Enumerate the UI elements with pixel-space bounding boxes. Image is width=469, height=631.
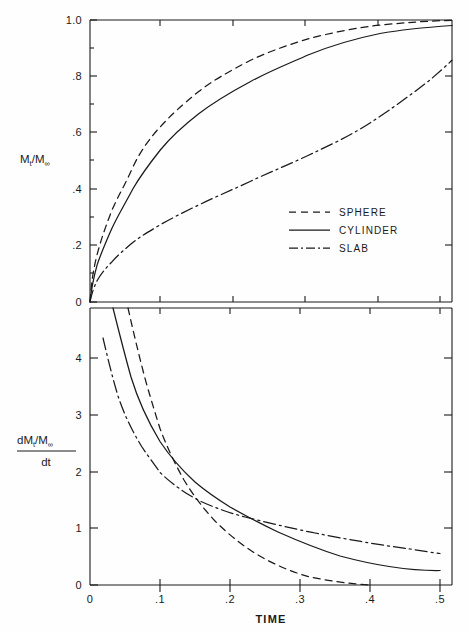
bottom-xtick-0: 0 xyxy=(87,593,93,605)
top-panel-right-ticks xyxy=(445,76,452,245)
two-panel-diffusion-figure: 1.0 .8 .6 .4 .2 0 Mt/M∞ SPHE xyxy=(0,0,469,631)
bottom-xtick-03: .3 xyxy=(295,593,305,605)
curve-sphere-cumulative xyxy=(90,20,452,302)
svg-text:dMt/M∞: dMt/M∞ xyxy=(17,434,53,449)
bottom-ytick-0: 0 xyxy=(76,579,82,591)
legend-label-slab: SLAB xyxy=(339,243,369,254)
top-ylabel-M: M xyxy=(20,153,30,165)
bottom-ytick-2: 2 xyxy=(76,466,82,478)
bottom-xtick-02: .2 xyxy=(225,593,235,605)
top-ytick-3: .6 xyxy=(72,126,82,138)
bottom-xtick-04: .4 xyxy=(365,593,375,605)
legend: SPHERE CYLINDER SLAB xyxy=(289,207,398,254)
top-panel-y-axis-title: Mt/M∞ xyxy=(20,153,50,168)
bottom-panel-y-ticks xyxy=(90,358,98,585)
bottom-panel-top-ticks xyxy=(160,308,440,314)
curve-slab-cumulative xyxy=(90,60,452,302)
top-panel: 1.0 .8 .6 .4 .2 0 Mt/M∞ SPHE xyxy=(20,14,452,308)
top-ytick-2: .8 xyxy=(72,70,82,82)
curve-cylinder-cumulative-smooth xyxy=(90,26,452,303)
bottom-panel-right-ticks xyxy=(444,358,452,528)
top-ytick-4: .4 xyxy=(72,183,82,195)
bottom-xtick-05: .5 xyxy=(435,593,445,605)
top-panel-top-ticks xyxy=(160,20,378,26)
bottom-ylabel-dM: dM xyxy=(17,434,33,446)
bottom-panel: 4 3 2 1 0 0 .1 .2 .3 .4 .5 TIME dMt/M∞ d… xyxy=(17,308,452,625)
x-axis-title: TIME xyxy=(255,613,286,625)
top-ytick-6: 0 xyxy=(76,296,82,308)
figure-page: 1.0 .8 .6 .4 .2 0 Mt/M∞ SPHE xyxy=(0,0,469,631)
curve-sphere-rate xyxy=(128,308,370,585)
legend-label-sphere: SPHERE xyxy=(339,207,387,218)
bottom-panel-y-axis-title: dMt/M∞ dt xyxy=(17,434,76,468)
top-ytick-5: .2 xyxy=(72,239,82,251)
bottom-ytick-4: 4 xyxy=(76,352,82,364)
svg-text:Mt/M∞: Mt/M∞ xyxy=(20,153,50,168)
curve-slab-rate xyxy=(103,338,440,554)
bottom-ylabel-slashM: /M xyxy=(35,434,48,446)
bottom-ytick-1: 1 xyxy=(76,522,82,534)
bottom-xtick-01: .1 xyxy=(155,593,165,605)
curve-cylinder-rate xyxy=(113,308,440,571)
top-ylabel-slashM: /M xyxy=(32,153,45,165)
bottom-ytick-3: 3 xyxy=(76,409,82,421)
top-ytick-1: 1.0 xyxy=(66,14,82,26)
bottom-ylabel-denominator: dt xyxy=(41,456,51,468)
bottom-ylabel-sub-inf: ∞ xyxy=(48,440,53,449)
top-panel-x-ticks xyxy=(160,296,440,302)
legend-label-cylinder: CYLINDER xyxy=(339,225,398,236)
top-ylabel-sub-inf: ∞ xyxy=(44,159,49,168)
